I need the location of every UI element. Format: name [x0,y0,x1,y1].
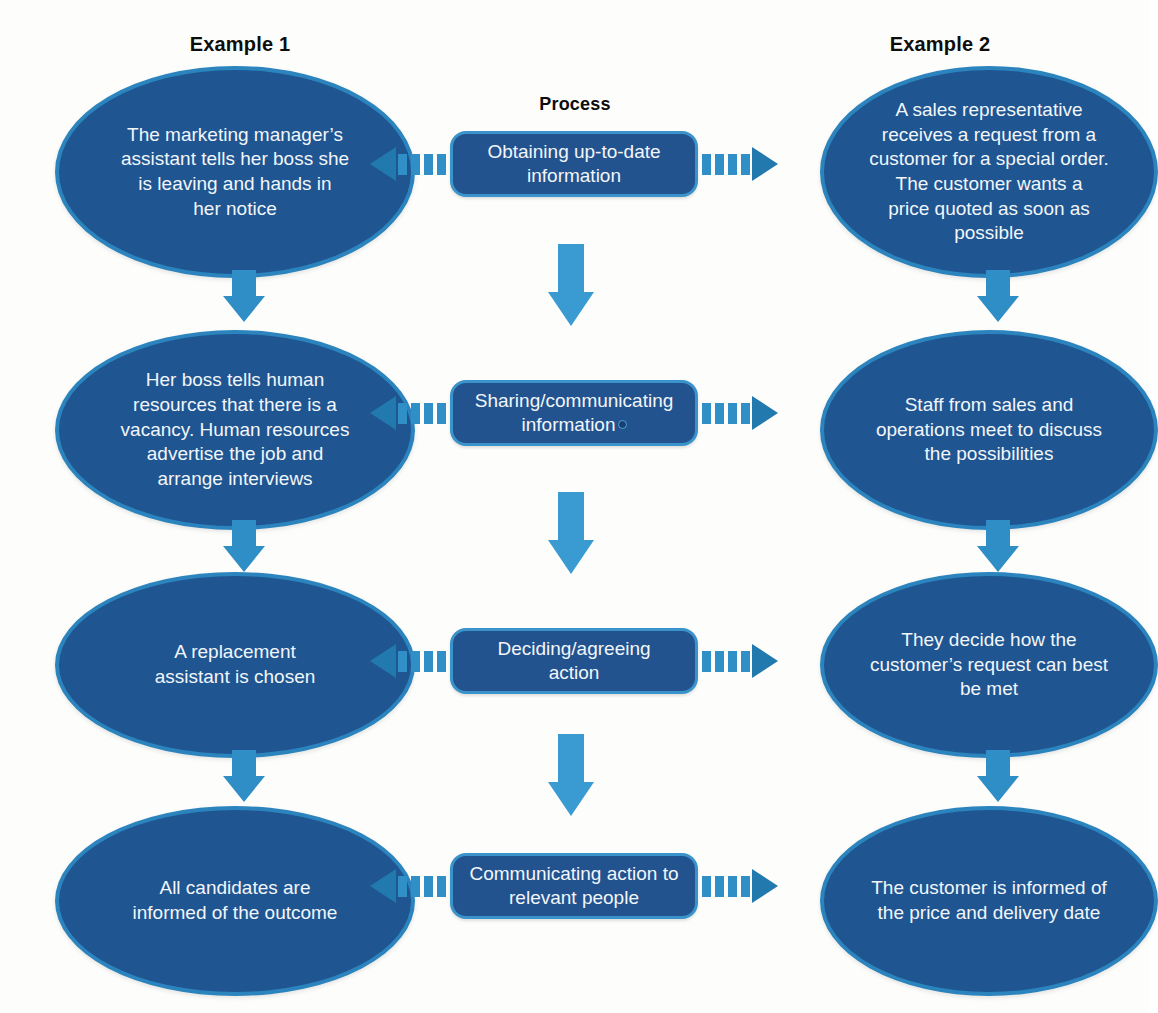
example2-step-4-ellipse: The customer is informed of the price an… [820,806,1158,996]
example2-step-1-text: A sales representative receives a reques… [858,98,1120,246]
arrow-dash [741,403,750,424]
arrow-dash [741,154,750,175]
left-dashed-arrow-icon-row-3 [370,644,450,678]
process-step-3-box: Deciding/agreeing action [450,628,698,694]
arrow-dash [411,651,420,672]
arrow-head [752,147,778,181]
process-step-1-box: Obtaining up-to-date information [450,131,698,197]
example1-step-1-ellipse: The marketing manager’s assistant tells … [55,66,415,278]
process-step-2-box: Sharing/communicating information [450,380,698,446]
example1-step-3-text: A replacement assistant is chosen [93,640,377,689]
arrow-shaft [558,734,584,782]
column-heading-process: Process [455,94,695,115]
arrow-dash [411,876,420,897]
arrow-tip [548,540,594,574]
arrow-head [752,396,778,430]
arrow-dash [398,876,407,897]
example2-step-4-text: The customer is informed of the price an… [858,876,1120,925]
ink-speck-artifact [618,420,627,429]
arrow-shaft [986,270,1010,296]
example1-step-2-text: Her boss tells human resources that ther… [93,368,377,491]
down-arrow-icon-process-3 [548,734,594,816]
arrow-head [752,869,778,903]
arrow-tip [977,296,1019,322]
arrow-head [370,147,396,181]
arrow-shaft [558,244,584,292]
arrow-dash [715,651,724,672]
arrow-shaft [232,520,256,546]
arrow-dash [424,651,433,672]
arrow-shaft [558,492,584,540]
example2-step-1-ellipse: A sales representative receives a reques… [820,66,1158,278]
arrow-dash [741,651,750,672]
arrow-dash [411,154,420,175]
arrow-dash [398,403,407,424]
arrow-tip [548,292,594,326]
process-step-1-text: Obtaining up-to-date information [463,140,685,188]
arrow-dash [437,154,446,175]
arrow-tip [548,782,594,816]
down-arrow-icon-example1-2 [223,520,265,572]
arrow-shaft [986,520,1010,546]
arrow-tip [223,776,265,802]
example2-step-3-ellipse: They decide how the customer’s request c… [820,572,1158,758]
arrow-dash [398,651,407,672]
example1-step-4-ellipse: All candidates are informed of the outco… [55,806,415,996]
arrow-dash [715,403,724,424]
process-step-2-text: Sharing/communicating information [475,390,674,435]
arrow-dash [437,876,446,897]
arrow-shaft [986,750,1010,776]
example1-step-3-ellipse: A replacement assistant is chosen [55,572,415,758]
arrow-dash [702,876,711,897]
process-step-4-box: Communicating action to relevant people [450,853,698,919]
arrow-dash [715,154,724,175]
arrow-dash [741,876,750,897]
arrow-tip [977,546,1019,572]
down-arrow-icon-process-2 [548,492,594,574]
arrow-dash [411,403,420,424]
arrow-head [370,644,396,678]
column-heading-example-2: Example 2 [760,33,1120,56]
right-dashed-arrow-icon-row-1 [700,147,780,181]
arrow-shaft [232,270,256,296]
process-step-3-text: Deciding/agreeing action [463,637,685,685]
arrow-tip [977,776,1019,802]
arrow-head [370,869,396,903]
arrow-dash [728,876,737,897]
down-arrow-icon-example1-1 [223,270,265,322]
right-dashed-arrow-icon-row-2 [700,396,780,430]
arrow-head [370,396,396,430]
example1-step-4-text: All candidates are informed of the outco… [93,876,377,925]
left-dashed-arrow-icon-row-1 [370,147,450,181]
column-heading-example-1: Example 1 [60,33,420,56]
arrow-dash [728,154,737,175]
down-arrow-icon-example2-3 [977,750,1019,802]
arrow-dash [424,876,433,897]
arrow-tip [223,296,265,322]
left-dashed-arrow-icon-row-4 [370,869,450,903]
arrow-head [752,644,778,678]
example2-step-3-text: They decide how the customer’s request c… [858,628,1120,702]
arrow-dash [437,403,446,424]
process-step-4-text: Communicating action to relevant people [463,862,685,910]
example1-step-2-ellipse: Her boss tells human resources that ther… [55,330,415,530]
down-arrow-icon-example2-2 [977,520,1019,572]
arrow-shaft [232,750,256,776]
arrow-dash [424,403,433,424]
arrow-dash [702,651,711,672]
left-dashed-arrow-icon-row-2 [370,396,450,430]
arrow-dash [437,651,446,672]
example1-step-1-text: The marketing manager’s assistant tells … [93,123,377,222]
example2-step-2-text: Staff from sales and operations meet to … [858,393,1120,467]
right-dashed-arrow-icon-row-4 [700,869,780,903]
arrow-tip [223,546,265,572]
arrow-dash [728,403,737,424]
arrow-dash [715,876,724,897]
down-arrow-icon-example1-3 [223,750,265,802]
arrow-dash [702,154,711,175]
arrow-dash [398,154,407,175]
down-arrow-icon-example2-1 [977,270,1019,322]
arrow-dash [424,154,433,175]
arrow-dash [702,403,711,424]
